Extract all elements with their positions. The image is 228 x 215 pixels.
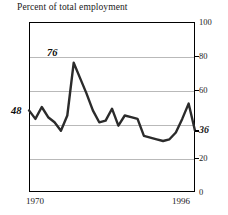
- y-axis-tick-label-36: 36: [199, 126, 209, 135]
- y-axis-tick-label-60: 60: [199, 86, 208, 95]
- annotation-start-value: 48: [11, 106, 22, 117]
- annotation-peak-value: 76: [47, 48, 58, 59]
- data-series-line: [29, 63, 195, 141]
- y-axis-tick-label-80: 80: [199, 52, 208, 61]
- x-axis-tick-start: 1970: [26, 196, 44, 206]
- chart-figure: Percent of total employment 48 76 1970 1…: [0, 0, 228, 215]
- y-axis-tick-label-0: 0: [199, 188, 203, 197]
- y-axis-tick-label-20: 20: [199, 154, 208, 163]
- x-axis-tick-end: 1996: [172, 196, 190, 206]
- y-axis-tick-label-100: 100: [199, 18, 212, 27]
- series-line-layer: [0, 0, 228, 215]
